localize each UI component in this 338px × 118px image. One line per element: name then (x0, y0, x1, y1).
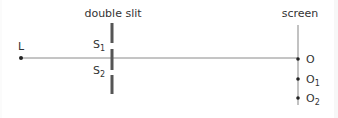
source-label: L (18, 40, 25, 53)
source-point-L (19, 56, 23, 60)
double-slit-diagram: L double slit S1 S2 screen O O1 O2 (0, 0, 338, 118)
screen-label-O1: O1 (306, 73, 320, 88)
barrier-middle (111, 49, 114, 70)
barrier-top (111, 23, 114, 43)
screen-point-O2 (296, 96, 300, 100)
screen-point-O (296, 57, 300, 61)
slit-label-s2: S2 (93, 64, 105, 79)
slit-label-s1: S1 (93, 38, 105, 53)
screen-title: screen (282, 7, 319, 20)
screen-label-O: O (306, 53, 315, 66)
screen-label-O2: O2 (306, 92, 320, 107)
double-slit-title: double slit (84, 7, 142, 20)
barrier-bottom (111, 75, 114, 94)
screen-point-O1 (296, 77, 300, 81)
